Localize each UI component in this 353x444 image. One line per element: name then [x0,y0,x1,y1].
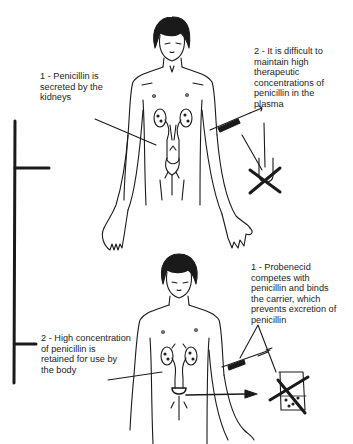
arrow-to-beaker [186,394,245,395]
bottom-beaker-crossed [270,372,308,413]
bottom-syringe [222,348,272,370]
top-test-tube-crossed [242,135,280,193]
label-bottom-probenecid: 1 - Probenecid competes with penicillin … [251,262,336,326]
label-top-penicillin-secreted: 1 - Penicillin is secreted by the kidney… [40,71,103,103]
top-syringe [210,106,262,132]
pointer-kidney [95,119,156,145]
bottom-human-figure [130,254,254,444]
pointer-plasma [264,123,265,167]
label-bottom-retained: 2 - High concentration of penicillin is … [41,333,131,375]
label-top-plasma-concentration: 2 - It is difficult to maintain high the… [254,46,324,110]
top-human-figure [102,17,252,250]
